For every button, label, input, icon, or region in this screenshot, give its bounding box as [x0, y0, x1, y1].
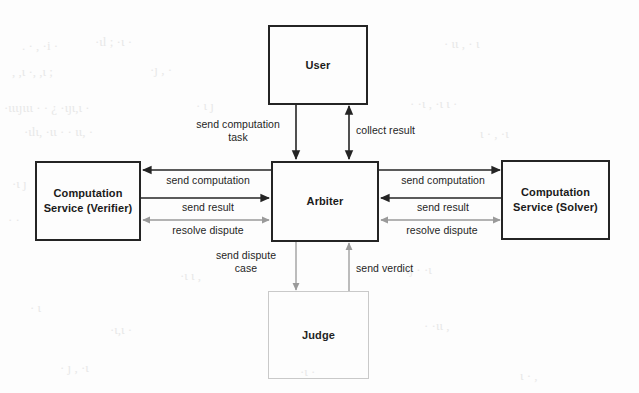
node-judge-label: Judge — [298, 328, 339, 343]
node-computation-service-verifier[interactable]: Computation Service (Verifier) — [35, 161, 141, 241]
edge-label-send-dispute-case: send dispute case — [203, 249, 289, 275]
node-computation-service-solver[interactable]: Computation Service (Solver) — [501, 160, 610, 240]
edge-label-verifier-to-arbiter: send result — [164, 201, 252, 214]
node-user-label: User — [302, 58, 335, 73]
edge-label-send-computation-task: send computation task — [183, 118, 293, 144]
diagram-canvas: . · , ·i · ·ιl ; ·ι · , ,ι ·, ,ι ; ·ȷ , … — [0, 0, 639, 393]
node-user[interactable]: User — [268, 25, 368, 105]
node-verifier-label: Computation Service (Verifier) — [37, 186, 139, 216]
edge-label-verifier-resolve-dispute: resolve dispute — [158, 224, 258, 237]
edge-label-solver-to-arbiter: send result — [399, 201, 487, 214]
node-judge[interactable]: Judge — [268, 291, 369, 379]
node-arbiter[interactable]: Arbiter — [271, 161, 379, 242]
edge-label-arbiter-to-verifier: send computation — [155, 174, 261, 187]
edge-label-arbiter-to-solver: send computation — [390, 174, 496, 187]
edge-label-solver-resolve-dispute: resolve dispute — [392, 224, 492, 237]
node-arbiter-label: Arbiter — [303, 194, 348, 209]
node-solver-label: Computation Service (Solver) — [503, 185, 608, 215]
edge-label-send-verdict: send verdict — [356, 262, 434, 275]
edge-label-collect-result: collect result — [356, 124, 440, 137]
